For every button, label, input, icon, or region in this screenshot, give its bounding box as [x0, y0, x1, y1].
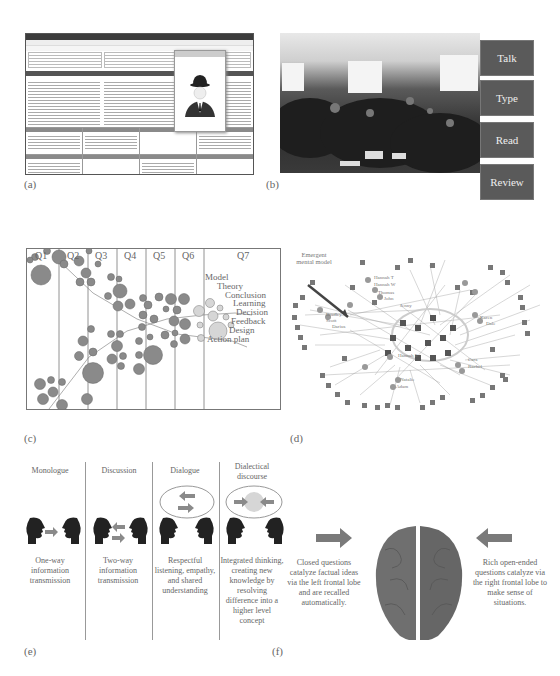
- panel-b-photo: [280, 33, 480, 173]
- arrow-right-icon: [316, 528, 352, 548]
- column-q6: Q6: [182, 250, 194, 261]
- column-q4: Q4: [124, 250, 136, 261]
- mode-title-dialogue: Dialogue: [155, 466, 215, 475]
- open-questions-text: Rich open-ended questions catalyze via t…: [472, 558, 548, 608]
- column-q3: Q3: [95, 250, 107, 261]
- node-label: Hannah W: [374, 282, 395, 287]
- step-type: Type: [480, 80, 534, 116]
- response-grid: [26, 127, 253, 175]
- node-label: Hannah T: [374, 275, 394, 280]
- panel-b-label: (b): [266, 178, 279, 190]
- column-q1: Q1: [35, 250, 47, 261]
- node-label: Darius: [332, 324, 345, 329]
- arrow-left-icon: [112, 522, 125, 532]
- brain-icon: [376, 526, 462, 640]
- image-popup: [174, 50, 226, 132]
- node-label: Cara: [468, 357, 477, 362]
- panel-e-communication-modes: Monologue Discussion Dialogue Dialectica…: [0, 450, 285, 640]
- column-q5: Q5: [153, 250, 165, 261]
- node-label: Natalie: [400, 377, 414, 382]
- node-label: Scott: [326, 318, 336, 323]
- node-label: Adam: [396, 384, 408, 389]
- node-label: Jenny: [400, 303, 412, 308]
- bowler-hat-man-icon: [175, 51, 225, 131]
- text-column: [104, 80, 176, 125]
- panel-c-question-bubble-chart: Q1 Q2 Q3 Q4 Q5 Q6 Q7 Model Theory Conclu…: [26, 248, 281, 410]
- node-label: Hannah E: [398, 353, 418, 358]
- panel-d-label: (d): [290, 432, 303, 444]
- panel-f-label: (f): [272, 645, 283, 657]
- text-field: [28, 52, 102, 68]
- mode-title-dialectical: Dialectical discourse: [222, 462, 282, 482]
- node-label: Bradley: [326, 312, 342, 317]
- panel-f-brain-questions: Closed questions catalyze factual ideas …: [280, 450, 560, 640]
- node-label: John: [384, 296, 393, 301]
- mode-text-discussion: Two-way information transmission: [86, 556, 150, 586]
- column-q2: Q2: [67, 250, 79, 261]
- node-label: Thomas: [378, 290, 394, 295]
- column-q7: Q7: [237, 250, 249, 261]
- outcome-action-plan: Action plan: [207, 335, 268, 344]
- mode-title-monologue: Monologue: [20, 466, 80, 475]
- panel-c-label: (c): [24, 432, 36, 444]
- mode-text-dialogue: Respectful listening, empathy, and share…: [153, 556, 217, 596]
- panel-a-label: (a): [24, 178, 36, 190]
- mode-text-monologue: One-way information transmission: [18, 556, 82, 586]
- arrow-left-icon: [476, 528, 512, 548]
- panel-e-label: (e): [24, 645, 36, 657]
- panel-d-network-diagram: Emergent mental model Hannah T Hannah W …: [290, 255, 552, 410]
- node-label: Karen: [480, 315, 492, 320]
- panel-a-software-window: [25, 33, 254, 175]
- text-column: [28, 80, 100, 125]
- step-review: Review: [480, 164, 534, 200]
- crowd-photo: [280, 33, 480, 173]
- step-read: Read: [480, 122, 534, 158]
- arrow-right-icon: [45, 527, 58, 537]
- emergent-model-annotation: Emergent mental model: [296, 251, 332, 265]
- closed-questions-text: Closed questions catalyze factual ideas …: [286, 558, 362, 608]
- mode-text-dialectical: Integrated thinking, creating new knowle…: [220, 556, 284, 626]
- node-label: Dale: [486, 321, 495, 326]
- mode-title-discussion: Discussion: [89, 466, 149, 475]
- arrow-right-icon: [112, 533, 125, 543]
- step-talk: Talk: [480, 40, 534, 76]
- node-label: Rachel: [468, 364, 482, 369]
